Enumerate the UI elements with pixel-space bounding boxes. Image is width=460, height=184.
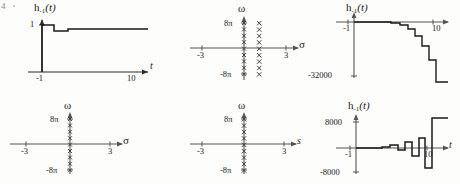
omega-tick-label-neg: -8π [220, 166, 231, 175]
x-tick-label-neg1: -1 [343, 24, 350, 33]
sigma-tick-label-3: 3 [284, 51, 288, 60]
x-axis-label: t [150, 61, 153, 71]
s-tick-label-3: 3 [282, 147, 286, 156]
panel-bottom-right-time-response: h-1(t) 8000 -8000 -1 10 t [336, 100, 456, 180]
x-axis-arrow [443, 20, 449, 25]
pole-markers-on-imaginary-axis [68, 117, 72, 172]
y-tick-label-pos8000: 8000 [325, 118, 342, 127]
s-axis-label: s [297, 136, 301, 146]
pole-markers-on-axis [242, 21, 246, 76]
sigma-axis-label: σ [299, 39, 305, 50]
sigma-tick-label-neg3: -3 [21, 147, 28, 156]
plot-top-middle [186, 8, 306, 86]
sigma-tick-label-3: 3 [108, 147, 112, 156]
y-tick-label-neg32000: -32000 [308, 71, 332, 80]
x-axis-arrow [142, 69, 148, 74]
omega-tick-label-pos: 8π [50, 115, 59, 124]
omega-tick-label-pos: 8π [224, 115, 233, 124]
omega-axis-label: ω [238, 100, 245, 111]
panel-top-left-time-response: h-1(t) 1 -1 10 t [28, 8, 158, 86]
plot-top-right [336, 8, 456, 88]
plot-title-top-left: h-1(t) [34, 2, 56, 15]
sigma-tick-label-neg3: -3 [197, 51, 204, 60]
x-tick-label-neg1: -1 [345, 150, 352, 159]
step-response-trace [42, 25, 148, 72]
omega-tick-label-pos: 8π [224, 19, 233, 28]
x-tick-label-10: 10 [432, 24, 441, 33]
omega-axis-label: ω [238, 3, 245, 14]
figure-container: 4 h-1(t) 1 -1 10 t [0, 0, 460, 184]
plot-title-bottom-right: h-1(t) [348, 100, 370, 113]
sigma-axis-label: σ [123, 135, 129, 146]
y-tick-label-1: 1 [30, 20, 34, 29]
plot-title-top-right: h-1(t) [346, 2, 368, 15]
panel-top-middle-pole-zero: ω 8π -8π -3 3 σ [186, 8, 306, 86]
x-tick-label-10: 10 [424, 150, 433, 159]
oscillating-staircase-trace [356, 118, 448, 168]
panel-bottom-middle-pole-zero: ω 8π -8π -3 3 s [186, 100, 306, 178]
panel-bottom-left-pole-zero: ω 8π -8π -3 3 σ [6, 100, 136, 178]
s-tick-label-neg3: -3 [197, 147, 204, 156]
y-axis-arrow [40, 19, 45, 25]
scan-artifact-char: 4 [1, 1, 11, 10]
x-tick-label-10: 10 [127, 74, 136, 83]
omega-tick-label-neg: -8π [46, 166, 57, 175]
plot-bottom-middle [186, 100, 306, 178]
y-axis-arrow [354, 114, 359, 120]
omega-tick-label-neg: -8π [220, 70, 231, 79]
omega-axis-label: ω [64, 100, 71, 111]
pole-markers-right-half-plane [257, 21, 261, 77]
x-axis-label: t [449, 140, 452, 150]
scan-artifact-dot [13, 5, 15, 7]
pole-markers-on-imaginary-axis [242, 117, 246, 173]
y-tick-label-neg8000: -8000 [320, 168, 340, 177]
panel-top-right-time-response: h-1(t) -1 10 -32000 [336, 8, 456, 88]
plot-top-left [28, 8, 158, 86]
x-tick-label-neg1: -1 [36, 74, 43, 83]
plot-bottom-left [6, 100, 136, 178]
